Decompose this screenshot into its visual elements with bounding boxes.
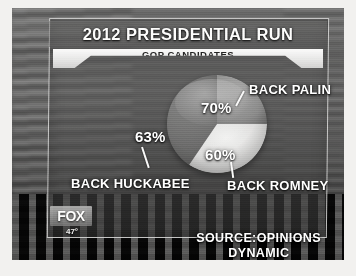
graphic-title-bar: 2012 PRESIDENTIAL RUN bbox=[49, 21, 327, 47]
source-line-2: DYNAMIC bbox=[196, 246, 321, 260]
source-line-1: SOURCE:OPINIONS bbox=[196, 231, 321, 246]
pie-label-romney: BACK ROMNEY bbox=[227, 178, 329, 193]
network-bug: FOX 47° bbox=[50, 206, 94, 236]
tv-broadcast-photo: 2012 PRESIDENTIAL RUN GOP CANDIDATES bbox=[12, 8, 344, 260]
fox-logo-icon: FOX bbox=[50, 206, 92, 226]
pie-label-huckabee: BACK HUCKABEE bbox=[71, 176, 190, 191]
graphic-subtitle-bar: GOP CANDIDATES bbox=[53, 49, 323, 68]
pie-value-huckabee: 63% bbox=[135, 128, 166, 145]
source-credit: SOURCE:OPINIONS DYNAMIC bbox=[196, 231, 321, 260]
pie-value-palin: 70% bbox=[201, 99, 232, 116]
screenshot-root: 2012 PRESIDENTIAL RUN GOP CANDIDATES bbox=[0, 0, 356, 276]
pie-label-palin: BACK PALIN bbox=[249, 82, 331, 97]
temperature-readout: 47° bbox=[50, 227, 94, 236]
pie-value-romney: 60% bbox=[205, 146, 236, 163]
graphic-title: 2012 PRESIDENTIAL RUN bbox=[83, 25, 294, 44]
broadcast-graphic-panel: 2012 PRESIDENTIAL RUN GOP CANDIDATES bbox=[47, 18, 329, 238]
leader-line-huckabee bbox=[141, 147, 150, 169]
graphic-subtitle: GOP CANDIDATES bbox=[142, 49, 234, 61]
